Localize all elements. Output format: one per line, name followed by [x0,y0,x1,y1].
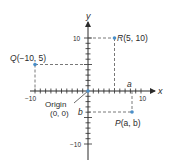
x-tick-label-10: 10 [139,95,147,102]
point-p-label: P(a, b) [115,118,141,128]
coordinate-plane: y x 10 −10 −10 10 R(5, 10) Q(−10, 5) P(a… [0,0,171,165]
origin-coords-label: (0, 0) [50,109,69,118]
variable-a-label: a [127,79,132,89]
x-tick-label-neg10: −10 [25,95,36,102]
y-tick-label-10: 10 [73,35,81,42]
x-axis-label: x [157,86,163,96]
variable-b-label: b [78,107,83,117]
point-q-label: Q(−10, 5) [10,53,46,63]
origin-label: Origin [45,100,66,109]
point-q [33,63,37,67]
point-r-label: R(5, 10) [117,33,148,43]
point-p [130,110,134,114]
origin-point [86,89,90,93]
y-tick-label-neg10: −10 [70,141,81,148]
y-axis-label: y [85,11,91,21]
point-r [113,36,117,40]
